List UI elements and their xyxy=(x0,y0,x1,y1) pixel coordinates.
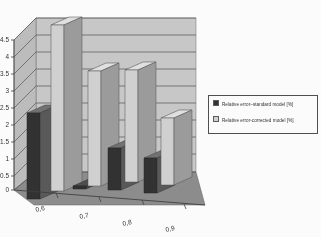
bar-front xyxy=(125,70,138,182)
bar-side xyxy=(64,17,82,191)
y-tick-label: 1.5 xyxy=(0,138,9,145)
y-tick-label: 2.5 xyxy=(0,104,9,111)
x-tick-label: 0,8 xyxy=(122,218,133,227)
y-tick-label: 0.5 xyxy=(0,172,9,179)
x-tick-label: 0,7 xyxy=(79,211,90,220)
legend-swatch-standard-model xyxy=(213,100,219,106)
legend-item-standard-model: Relative error–standard model [%] xyxy=(213,100,293,106)
y-tick-label: 3.5 xyxy=(0,70,9,77)
legend-swatch-corrected-model xyxy=(213,116,219,122)
bar-side xyxy=(174,110,192,185)
bar-front xyxy=(73,186,86,189)
chart-legend: Relative error–standard model [%] Relati… xyxy=(208,95,318,134)
legend-label-corrected-model: Relative error-corrected model [%] xyxy=(222,118,294,124)
x-tick-label: 0,9 xyxy=(165,224,176,233)
y-axis-tick-labels: 4.5 4 3.5 3 2.5 2 1.5 1 0.5 0 xyxy=(0,36,9,193)
x-tick-label: 0,6 xyxy=(35,204,46,213)
legend-label-standard-model: Relative error–standard model [%] xyxy=(222,102,293,108)
y-tick-label: 0 xyxy=(5,186,9,193)
y-tick-label: 2 xyxy=(5,121,9,128)
bar-series-1-cat-3 xyxy=(161,110,192,185)
y-tick-label: 4 xyxy=(5,53,9,60)
bar-front xyxy=(51,25,64,191)
bar-front xyxy=(88,71,101,186)
chart-figure: 4.5 4 3.5 3 2.5 2 1.5 1 0.5 0 xyxy=(0,0,321,237)
bar-front xyxy=(108,148,121,190)
bar-series-1-cat-0 xyxy=(51,17,82,191)
y-tick-label: 4.5 xyxy=(0,36,9,43)
bar-front xyxy=(144,158,157,193)
x-axis-tick-labels: 0,6 0,7 0,8 0,9 xyxy=(35,204,176,233)
bar-front xyxy=(161,118,174,185)
bar-front xyxy=(27,113,40,199)
y-tick-label: 3 xyxy=(5,87,9,94)
y-tick-label: 1 xyxy=(5,155,9,162)
legend-item-corrected-model: Relative error-corrected model [%] xyxy=(213,116,294,122)
